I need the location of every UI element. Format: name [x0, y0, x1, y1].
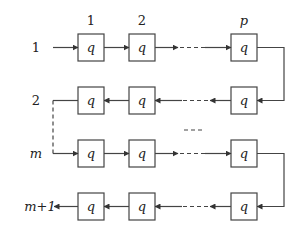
- row-label: 2: [32, 93, 40, 108]
- q-cell-label: q: [87, 40, 95, 55]
- column-label: p: [240, 13, 249, 28]
- column-label: 2: [138, 13, 146, 28]
- pipeline-grid-diagram: 12p1qqq2qqqmqqqm+1qqq: [0, 0, 299, 235]
- q-cell-label: q: [240, 93, 248, 108]
- row-label: 1: [32, 40, 40, 55]
- q-cell-label: q: [240, 199, 248, 214]
- q-cell-label: q: [138, 40, 146, 55]
- q-cell-label: q: [138, 199, 146, 214]
- row-label: m+1: [24, 199, 56, 214]
- row-label: m: [30, 146, 42, 161]
- q-cell-label: q: [240, 146, 248, 161]
- q-cell-label: q: [240, 40, 248, 55]
- column-label: 1: [87, 13, 95, 28]
- q-cell-label: q: [138, 93, 146, 108]
- q-cell-label: q: [87, 146, 95, 161]
- wrap-connector-right: [257, 48, 284, 101]
- q-cell-label: q: [87, 93, 95, 108]
- wrap-connector-right: [257, 154, 284, 207]
- q-cell-label: q: [87, 199, 95, 214]
- q-cell-label: q: [138, 146, 146, 161]
